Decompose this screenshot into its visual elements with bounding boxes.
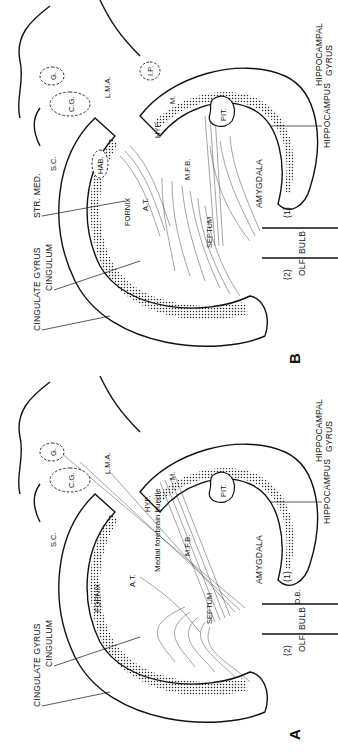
label-mfb: M.F.B.	[183, 535, 192, 556]
cingulum-band	[90, 138, 248, 320]
label-mfb: M.F.B.	[183, 159, 192, 180]
panel-a: A CINGULATE GYRUS CINGULUM S.C. FORNIX A…	[0, 376, 338, 752]
label-ip: I.P.	[146, 66, 155, 76]
label-pit: PIT.	[219, 108, 228, 121]
label-cingulum: CINGULUM	[44, 244, 54, 291]
label-m: M.	[168, 472, 177, 480]
label-hippocampal-gyrus-1: HIPPOCAMPAL	[314, 23, 324, 86]
label-at: A.T.	[128, 574, 137, 587]
label-pit: PIT.	[219, 484, 228, 497]
label-hyp: HYP.	[153, 121, 162, 138]
label-cg: C.G.	[67, 97, 76, 112]
panel-letter: A	[286, 729, 303, 740]
label-bulb: BULB	[297, 231, 307, 254]
label-hippocampal-gyrus-2: GYRUS	[324, 45, 334, 76]
label-cg: C.G.	[67, 473, 76, 488]
label-hippocampal-gyrus-1: HIPPOCAMPAL	[314, 399, 324, 462]
label-fornix: FORNIX	[123, 198, 132, 226]
label-hippocampus: HIPPOCAMPUS	[322, 459, 332, 524]
label-g: G.	[49, 448, 58, 456]
label-cingulum: CINGULUM	[44, 620, 54, 667]
label-lma: L.M.A.	[103, 452, 112, 474]
label-amygdala: AMYGDALA	[254, 159, 264, 208]
brainstem-outline	[19, 376, 140, 522]
label-septum: SEPTUM	[205, 217, 214, 248]
label-m: M.	[168, 96, 177, 104]
label-str-med: STR. MED.	[32, 173, 42, 218]
brainstem-outline	[19, 0, 140, 146]
label-hippocampal-gyrus-2: GYRUS	[324, 421, 334, 452]
label-septum: SEPTUM	[205, 593, 214, 624]
label-sc: S.C.	[49, 156, 58, 171]
label-sc: S.C.	[49, 532, 58, 547]
label-cingulate-gyrus: CINGULATE GYRUS	[32, 623, 42, 707]
label-amygdala: AMYGDALA	[254, 535, 264, 584]
label-bulb: BULB	[297, 607, 307, 630]
label-path-2: (2)	[282, 269, 292, 280]
label-cingulate-gyrus: CINGULATE GYRUS	[32, 247, 42, 331]
label-lma: L.M.A.	[103, 76, 112, 98]
label-path-2: (2)	[282, 645, 292, 656]
label-g: G.	[49, 72, 58, 80]
label-olf: OLF.	[297, 633, 307, 652]
label-hab: HAB.	[96, 156, 105, 174]
cingulum-band	[90, 514, 248, 696]
label-path-1: (1)	[282, 571, 292, 582]
label-medial-forebrain-bundle: Medial forebrain bundle	[153, 488, 162, 572]
panel-letter: B	[286, 353, 303, 364]
panel-b: B CINGULATE GYRUS CINGULUM STR. MED. S.C…	[0, 0, 338, 376]
label-hyp: HYP.	[143, 495, 152, 512]
label-olf: OLF.	[297, 257, 307, 276]
label-fornix: FORNIX	[93, 584, 102, 612]
label-hippocampus: HIPPOCAMPUS	[322, 83, 332, 148]
panel-a-diagram: A CINGULATE GYRUS CINGULUM S.C. FORNIX A…	[0, 376, 338, 752]
panel-b-diagram: B CINGULATE GYRUS CINGULUM STR. MED. S.C…	[0, 0, 338, 376]
label-path-1: (1)	[282, 207, 292, 218]
figure: B CINGULATE GYRUS CINGULUM STR. MED. S.C…	[0, 0, 338, 752]
label-db: D.B.	[293, 589, 302, 604]
label-at: A.T.	[141, 198, 150, 211]
